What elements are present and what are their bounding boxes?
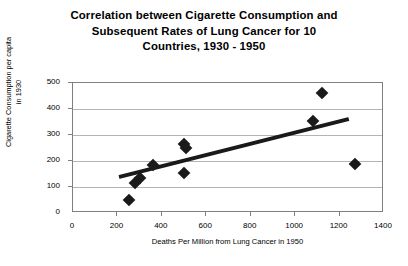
y-tick-label: 200: [30, 156, 60, 164]
x-tick-label: 1000: [274, 222, 314, 230]
plot-area: [72, 82, 383, 212]
data-point: [349, 157, 362, 170]
x-tick-label: 1200: [319, 222, 359, 230]
chart-title-line-1: Correlation between Cigarette Consumptio…: [26, 8, 382, 24]
x-tick-label: 200: [96, 222, 136, 230]
chart-title-line-2: Subsequent Rates of Lung Cancer for 10: [26, 24, 382, 40]
chart-title: Correlation between Cigarette Consumptio…: [26, 8, 382, 55]
y-tick-label: 100: [30, 182, 60, 190]
x-axis-title: Deaths Per Million from Lung Cancer in 1…: [72, 237, 383, 246]
y-tick-label: 500: [30, 78, 60, 86]
x-tick-mark: [294, 212, 295, 216]
y-axis-title-line-2: in 1930: [14, 27, 24, 157]
x-tick-mark: [116, 212, 117, 216]
data-point: [315, 87, 328, 100]
x-tick-label: 400: [141, 222, 181, 230]
gridline: [73, 109, 382, 110]
x-tick-mark: [250, 212, 251, 216]
x-tick-label: 1400: [363, 222, 403, 230]
x-tick-mark: [161, 212, 162, 216]
y-axis-title-line-1: Cigarette Consumption per capita: [4, 27, 14, 157]
gridline: [73, 161, 382, 162]
y-tick-label: 300: [30, 130, 60, 138]
x-tick-label: 0: [52, 222, 92, 230]
x-tick-label: 600: [185, 222, 225, 230]
data-point: [178, 166, 191, 179]
gridline: [73, 135, 382, 136]
chart-container: Correlation between Cigarette Consumptio…: [0, 0, 408, 266]
data-point: [122, 194, 135, 207]
x-tick-mark: [339, 212, 340, 216]
x-tick-mark: [205, 212, 206, 216]
y-tick-label: 400: [30, 104, 60, 112]
x-tick-label: 800: [230, 222, 270, 230]
y-tick-label: 0: [30, 208, 60, 216]
chart-title-line-3: Countries, 1930 - 1950: [26, 39, 382, 55]
gridline: [73, 187, 382, 188]
